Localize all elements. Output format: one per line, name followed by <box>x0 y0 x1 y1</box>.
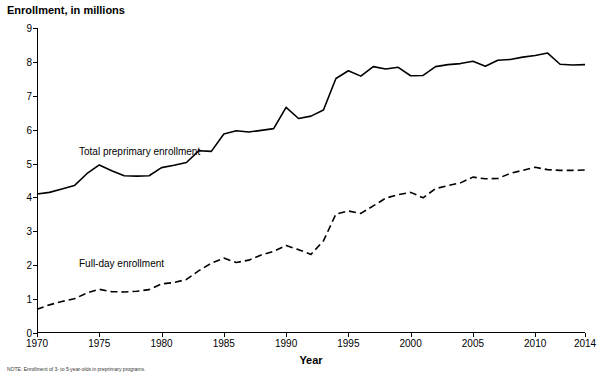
y-tick-label: 5 <box>26 158 32 169</box>
annotation-full-day-enrollment: Full-day enrollment <box>79 258 164 269</box>
y-tick-label: 2 <box>26 260 32 271</box>
x-tick-mark <box>348 333 349 337</box>
chart-container: Enrollment, in millions 0123456789 19701… <box>0 0 610 376</box>
x-tick-mark <box>585 333 586 337</box>
x-tick-mark <box>224 333 225 337</box>
x-tick-label: 2005 <box>462 338 484 349</box>
y-tick-label: 9 <box>26 23 32 34</box>
y-tick-label: 3 <box>26 226 32 237</box>
x-tick-mark <box>99 333 100 337</box>
x-tick-label: 1975 <box>88 338 110 349</box>
x-tick-label: 2000 <box>400 338 422 349</box>
line-total-preprimary-enrollment <box>37 53 585 194</box>
x-tick-label: 1990 <box>275 338 297 349</box>
x-tick-mark <box>411 333 412 337</box>
x-tick-label: 1970 <box>26 338 48 349</box>
x-tick-mark <box>535 333 536 337</box>
x-tick-mark <box>473 333 474 337</box>
x-axis-title: Year <box>299 354 322 366</box>
annotation-total-preprimary-enrollment: Total preprimary enrollment <box>79 146 200 157</box>
x-tick-label: 2014 <box>574 338 596 349</box>
x-tick-mark <box>162 333 163 337</box>
y-tick-label: 4 <box>26 192 32 203</box>
x-tick-label: 1985 <box>213 338 235 349</box>
x-tick-label: 2010 <box>524 338 546 349</box>
y-tick-label: 6 <box>26 124 32 135</box>
chart-title: Enrollment, in millions <box>7 4 125 16</box>
plot-area: 0123456789 19701975198019851990199520002… <box>37 28 585 333</box>
x-tick-mark <box>286 333 287 337</box>
y-tick-label: 7 <box>26 90 32 101</box>
chart-footnote: NOTE: Enrollment of 3- to 5-year-olds in… <box>7 366 145 372</box>
line-full-day-enrollment <box>37 167 585 309</box>
series-lines <box>37 28 585 333</box>
y-tick-label: 0 <box>26 328 32 339</box>
x-tick-label: 1980 <box>150 338 172 349</box>
x-tick-label: 1995 <box>337 338 359 349</box>
y-tick-label: 1 <box>26 294 32 305</box>
y-tick-label: 8 <box>26 56 32 67</box>
x-tick-mark <box>37 333 38 337</box>
